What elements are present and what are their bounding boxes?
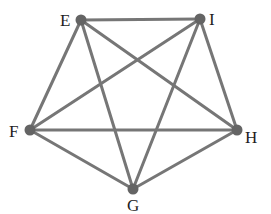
edge-i-h [200,19,237,130]
vertex-i [195,14,206,25]
vertex-e [76,15,87,26]
vertex-label-i: I [209,10,215,29]
vertex-f [25,125,36,136]
vertex-label-e: E [60,11,70,30]
vertex-g [128,184,139,195]
edge-i-g [133,19,200,189]
vertex-label-g: G [127,196,139,214]
vertices-group [25,14,243,195]
labels-group: EIFHG [9,10,257,214]
vertex-label-f: F [9,122,18,141]
edge-e-h [81,20,237,130]
vertex-h [232,125,243,136]
complete-graph-k5: EIFHG [0,0,271,214]
vertex-label-h: H [245,128,257,147]
edges-group [30,19,237,189]
edge-e-i [81,19,200,20]
edge-h-g [133,130,237,189]
